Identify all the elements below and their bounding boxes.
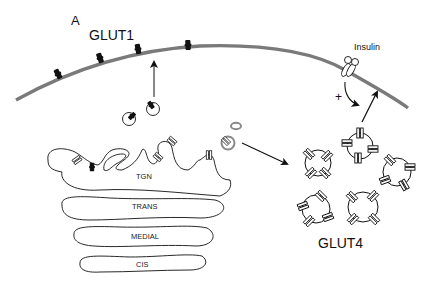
stimulation-plus-sign: + [335,90,342,104]
glut4-storage-vesicles [297,128,415,227]
glut1-label: GLUT1 [89,27,134,43]
golgi-to-glut4-arrow [242,143,287,164]
insulin-label: Insulin [354,42,380,52]
glut4-vesicle [303,148,333,179]
insulin-signal-arrow [345,82,358,105]
cis-label: CIS [136,260,149,269]
glut1-vesicles [123,100,160,125]
golgi-tgn [48,141,231,196]
medial-label: MEDIAL [131,232,159,241]
glut4-label: GLUT4 [318,235,363,251]
glut4-vesicle [297,190,334,227]
panel-label: A [71,13,80,28]
trans-label: TRANS [132,202,157,211]
tgn-label: TGN [136,172,152,181]
budding-vesicles [221,123,241,150]
glut4-vesicle [379,154,415,191]
glut4-vesicle [342,128,378,163]
glut4-translocation-arrow [362,92,377,122]
glut4-vesicle [346,190,380,225]
